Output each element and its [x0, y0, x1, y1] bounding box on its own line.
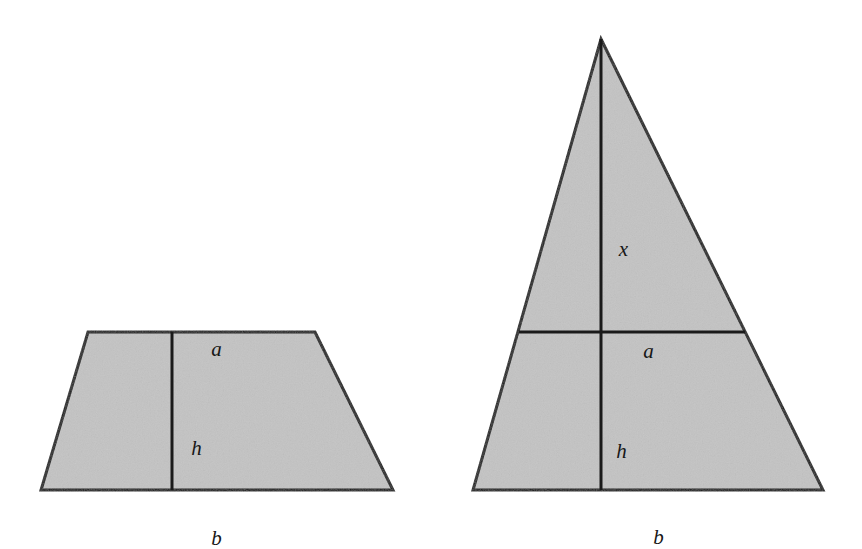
trapezoid-top-label: a [206, 318, 238, 381]
triangle-body [473, 39, 823, 490]
triangle-lower-height-label: h [611, 420, 643, 483]
triangle-base-label: b [648, 506, 680, 549]
triangle-upper-height-label: x [613, 218, 643, 281]
trapezoid-top-label-text: a [211, 339, 222, 360]
triangle-lower-height-label-text: h [616, 441, 627, 462]
triangle-upper-height-label-text: x [619, 239, 628, 260]
trapezoid-base-label: b [206, 507, 238, 549]
trapezoid-base-label-text: b [211, 528, 222, 549]
triangle-midline-label: a [638, 320, 670, 383]
trapezoid-height-label-text: h [191, 438, 202, 459]
triangle-shape-group [473, 39, 823, 490]
trapezoid-height-label: h [186, 417, 218, 480]
triangle-midline-label-text: a [643, 341, 654, 362]
triangle-base-label-text: b [653, 527, 664, 548]
